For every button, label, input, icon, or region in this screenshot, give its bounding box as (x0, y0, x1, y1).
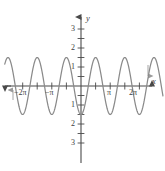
y-tick-label-1: 1 (71, 63, 75, 71)
y-tick-label-neg-3: 3 (71, 139, 75, 147)
x-tick-label-neg-2pi: −2π (14, 89, 27, 97)
x-tick-label-neg-pi: −π (45, 89, 54, 97)
graph-figure: −2π −π π 2π 3 2 1 1 2 3 y x (0, 0, 165, 171)
y-tick-label-neg-2: 2 (71, 120, 75, 128)
y-tick-label-neg-1: 1 (71, 101, 75, 109)
x-axis-label: x (152, 77, 156, 86)
x-tick-label-2pi: 2π (129, 89, 137, 97)
y-tick-label-2: 2 (71, 44, 75, 52)
y-tick-label-3: 3 (71, 25, 75, 33)
x-tick-label-pi: π (107, 89, 111, 97)
plot-area (0, 0, 165, 171)
y-axis-label: y (86, 14, 90, 23)
